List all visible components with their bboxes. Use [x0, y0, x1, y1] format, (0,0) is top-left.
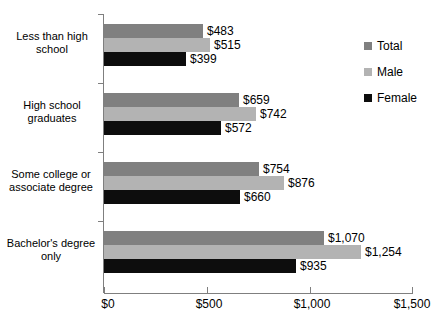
category-label-bachelors-degree-only: Bachelor's degree only [0, 237, 102, 263]
bar-chart: Less than high school $483 $515 $399 Hig… [0, 0, 436, 321]
legend-item-total[interactable]: Total [364, 36, 417, 56]
category-label-line: associate degree [0, 181, 102, 194]
bar-value-total-bachelors-degree-only: $1,070 [328, 231, 365, 245]
category-label-line: only [0, 250, 102, 263]
legend-item-female[interactable]: Female [364, 88, 417, 108]
bar-value-male-less-than-high-school: $515 [214, 38, 241, 52]
category-label-line: Some college or [0, 168, 102, 181]
x-axis-tick-label-500: $500 [196, 297, 223, 311]
bar-value-total-some-college: $754 [263, 162, 290, 176]
x-axis-tick [310, 287, 311, 294]
bar-male-some-college [104, 176, 284, 190]
category-label-line: Less than high [4, 30, 100, 43]
bar-female-bachelors-degree-only [104, 259, 296, 273]
bar-value-female-some-college: $660 [244, 190, 271, 204]
category-label-some-college-or-associate-degree: Some college or associate degree [0, 168, 102, 194]
category-label-line: High school [4, 99, 100, 112]
category-label-line: Bachelor's degree [0, 237, 102, 250]
x-axis-tick [412, 287, 413, 294]
bar-total-less-than-high-school [104, 24, 203, 38]
category-label-line: graduates [4, 112, 100, 125]
category-label-high-school-graduates: High school graduates [4, 99, 100, 125]
legend-label-male: Male [377, 65, 403, 79]
y-axis-tick [98, 152, 104, 153]
y-axis-tick [98, 14, 104, 15]
bar-total-bachelors-degree-only [104, 231, 324, 245]
x-axis-tick-label-1000: $1,000 [294, 297, 331, 311]
bar-value-total-high-school-graduates: $659 [243, 93, 270, 107]
bar-value-male-high-school-graduates: $742 [260, 107, 287, 121]
bar-value-male-bachelors-degree-only: $1,254 [365, 245, 402, 259]
bar-total-high-school-graduates [104, 93, 239, 107]
bar-female-high-school-graduates [104, 121, 221, 135]
bar-value-female-less-than-high-school: $399 [190, 52, 217, 66]
legend-item-male[interactable]: Male [364, 62, 417, 82]
x-axis-tick-label-1500: $1,500 [394, 297, 431, 311]
bar-value-male-some-college: $876 [288, 176, 315, 190]
x-axis-tick [104, 287, 105, 294]
bar-value-female-bachelors-degree-only: $935 [300, 259, 327, 273]
legend-label-female: Female [377, 91, 417, 105]
y-axis-tick [98, 83, 104, 84]
x-axis-tick-label-0: $0 [101, 297, 114, 311]
legend-label-total: Total [377, 39, 402, 53]
bar-female-less-than-high-school [104, 52, 186, 66]
y-axis-tick [98, 221, 104, 222]
bar-male-high-school-graduates [104, 107, 256, 121]
bar-value-female-high-school-graduates: $572 [225, 121, 252, 135]
category-label-line: school [4, 43, 100, 56]
legend-swatch-icon [364, 94, 372, 102]
x-axis-tick [207, 287, 208, 294]
legend-swatch-icon [364, 68, 372, 76]
bar-female-some-college [104, 190, 240, 204]
category-label-less-than-high-school: Less than high school [4, 30, 100, 56]
bar-male-bachelors-degree-only [104, 245, 361, 259]
x-axis-line [104, 293, 413, 294]
bar-male-less-than-high-school [104, 38, 210, 52]
bar-total-some-college [104, 162, 259, 176]
legend-swatch-icon [364, 42, 372, 50]
legend: Total Male Female [364, 36, 417, 114]
bar-value-total-less-than-high-school: $483 [207, 24, 234, 38]
